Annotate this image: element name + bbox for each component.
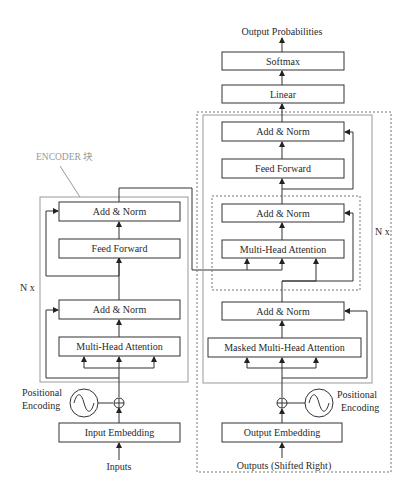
decoder-repeat-label: N x xyxy=(375,226,390,237)
encoder-input-label: Inputs xyxy=(107,461,132,472)
encoder-multi-head-attention: Multi-Head Attention xyxy=(59,337,180,356)
block-label: Add & Norm xyxy=(256,208,310,219)
linear-block: Linear xyxy=(222,85,344,103)
encoder-input-embedding: Input Embedding xyxy=(59,423,180,442)
decoder: N x Add & Norm Feed Forward Add & Norm xyxy=(197,104,391,472)
decoder-output-embedding: Output Embedding xyxy=(222,423,342,442)
block-label: Masked Multi-Head Attention xyxy=(224,342,345,353)
transformer-diagram: ENCODER 块 N x Add & Norm Feed Forward xyxy=(0,0,411,485)
encoder-pe-label-line2: Encoding xyxy=(22,400,60,411)
block-label: Multi-Head Attention xyxy=(76,341,162,352)
encoder-pe-label-line1: Positional xyxy=(22,387,62,398)
arrow xyxy=(282,259,316,302)
block-label: Add & Norm xyxy=(256,126,310,137)
block-label: Add & Norm xyxy=(256,306,310,317)
block-label: Softmax xyxy=(266,56,300,67)
encoder-repeat-label: N x xyxy=(20,282,35,293)
softmax-block: Softmax xyxy=(222,52,344,70)
block-label: Add & Norm xyxy=(93,206,147,217)
encoder-annotation-label: ENCODER 块 xyxy=(36,151,93,162)
block-label: Output Embedding xyxy=(244,427,320,438)
encoder-feed-forward: Feed Forward xyxy=(59,239,180,258)
decoder-feed-forward: Feed Forward xyxy=(222,159,344,178)
decoder-add-norm-top: Add & Norm xyxy=(222,122,344,141)
encoder-add-norm-top: Add & Norm xyxy=(59,202,180,221)
output-probabilities-label: Output Probabilities xyxy=(242,26,323,37)
block-label: Multi-Head Attention xyxy=(240,244,326,255)
add-circle-icon xyxy=(114,398,124,408)
block-label: Linear xyxy=(270,89,297,100)
decoder-pe-label-line1: Positional xyxy=(337,389,377,400)
block-label: Feed Forward xyxy=(92,243,148,254)
annotation-leader-line xyxy=(60,166,80,197)
decoder-input-label: Outputs (Shifted Right) xyxy=(237,460,331,472)
output-head: Softmax Linear Output Probabilities xyxy=(222,26,344,104)
block-label: Add & Norm xyxy=(93,304,147,315)
encoder-add-norm-bottom: Add & Norm xyxy=(59,300,180,319)
decoder-pe-label-line2: Encoding xyxy=(341,402,379,413)
decoder-add-norm-middle: Add & Norm xyxy=(222,204,344,222)
decoder-multi-head-attention: Multi-Head Attention xyxy=(222,240,344,258)
decoder-add-norm-bottom: Add & Norm xyxy=(222,302,344,320)
encoder: ENCODER 块 N x Add & Norm Feed Forward xyxy=(20,151,188,472)
decoder-masked-multi-head-attention: Masked Multi-Head Attention xyxy=(208,338,361,357)
add-circle-icon xyxy=(277,398,287,408)
block-label: Input Embedding xyxy=(85,427,155,438)
block-label: Feed Forward xyxy=(255,163,311,174)
